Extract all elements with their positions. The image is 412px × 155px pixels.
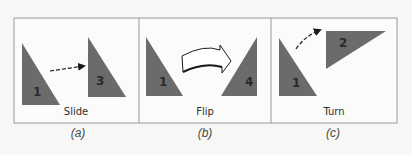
transformations-figure: 1 3 Slide 1 4 Flip 1 2 Turn (a <box>0 0 412 155</box>
transformation-label: Turn <box>322 106 344 117</box>
triangle-label: 1 <box>159 75 167 89</box>
caption-a: (a) <box>71 126 86 140</box>
triangle-label: 3 <box>96 74 104 88</box>
triangle-label: 1 <box>292 76 300 90</box>
triangle-label: 1 <box>33 85 41 99</box>
transformation-label: Slide <box>64 106 88 117</box>
caption-c: (c) <box>326 126 340 140</box>
caption-b: (b) <box>198 126 213 140</box>
transformation-label: Flip <box>196 106 214 117</box>
triangle-label: 4 <box>245 75 253 89</box>
triangle-label: 2 <box>339 36 347 50</box>
